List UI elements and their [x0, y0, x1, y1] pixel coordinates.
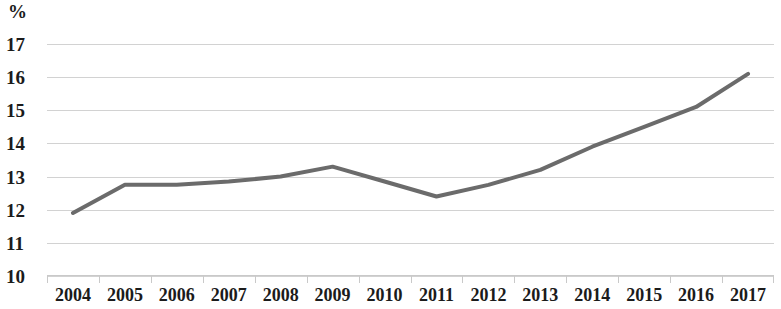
- x-axis-tick: [670, 276, 671, 283]
- x-axis-tick: [411, 276, 412, 283]
- y-axis-tick-label: 15: [6, 101, 40, 120]
- x-axis-tick: [773, 276, 774, 283]
- x-axis-tick-label: 2006: [159, 284, 195, 306]
- x-axis-tick-label: 2012: [470, 284, 506, 306]
- x-axis-tick-label: 2009: [315, 284, 351, 306]
- x-axis-tick: [722, 276, 723, 283]
- y-axis-unit-label: %: [8, 2, 27, 22]
- y-axis-tick-label: 17: [6, 35, 40, 54]
- x-axis-tick-label: 2015: [626, 284, 662, 306]
- x-axis-tick: [203, 276, 204, 283]
- series-line: [47, 44, 774, 276]
- x-axis-tick-label: 2004: [55, 284, 91, 306]
- x-axis-tick-label: 2013: [522, 284, 558, 306]
- y-axis-tick-label: 13: [6, 167, 40, 186]
- x-axis-tick: [566, 276, 567, 283]
- x-axis-tick: [359, 276, 360, 283]
- x-axis-tick: [99, 276, 100, 283]
- x-axis-tick: [307, 276, 308, 283]
- x-axis-tick-label: 2008: [263, 284, 299, 306]
- x-axis-tick-label: 2010: [367, 284, 403, 306]
- x-axis-tick-label: 2014: [574, 284, 610, 306]
- y-axis-tick-label: 10: [6, 267, 40, 286]
- y-axis-tick-label: 14: [6, 134, 40, 153]
- plot-area: [47, 44, 774, 276]
- x-axis-tick-label: 2017: [730, 284, 766, 306]
- x-axis-tick: [514, 276, 515, 283]
- x-axis-tick: [151, 276, 152, 283]
- y-axis-tick-label: 12: [6, 200, 40, 219]
- x-axis-tick-label: 2016: [678, 284, 714, 306]
- y-axis-tick-label: 16: [6, 68, 40, 87]
- x-axis-tick-label: 2011: [419, 284, 454, 306]
- x-axis-tick: [255, 276, 256, 283]
- x-axis-tick: [618, 276, 619, 283]
- x-axis-tick: [462, 276, 463, 283]
- x-axis-tick-label: 2007: [211, 284, 247, 306]
- x-axis-tick-label: 2005: [107, 284, 143, 306]
- line-chart: % 1716151413121110 200420052006200720082…: [0, 0, 781, 309]
- x-axis: 2004200520062007200820092010201120122013…: [47, 276, 774, 309]
- y-axis-tick-label: 11: [6, 233, 40, 252]
- x-axis-tick: [47, 276, 48, 283]
